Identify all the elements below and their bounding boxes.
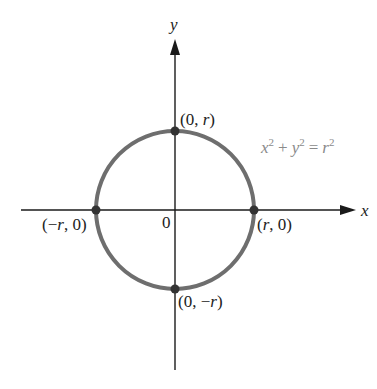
point-label-top: (0, r)	[180, 110, 215, 129]
y-axis-label: y	[168, 15, 178, 34]
y-axis	[170, 39, 180, 370]
point-label-bottom: (0, −r)	[178, 292, 223, 311]
circle-equation: x2+y2=r2	[260, 136, 334, 157]
point-top	[171, 127, 180, 136]
x-axis-label: x	[360, 201, 369, 220]
circle-diagram: y x 0 (0, r) (r, 0) (−r, 0) (0, −r) x2+y…	[0, 0, 377, 389]
point-left	[92, 206, 101, 215]
y-axis-arrow-icon	[170, 39, 180, 55]
point-right	[250, 206, 259, 215]
point-label-left: (−r, 0)	[42, 215, 87, 234]
x-axis	[21, 205, 356, 215]
origin-label: 0	[162, 213, 171, 232]
point-label-right: (r, 0)	[257, 215, 292, 234]
x-axis-arrow-icon	[340, 205, 356, 215]
